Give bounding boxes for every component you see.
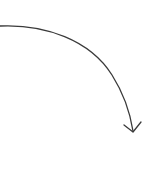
diagram-canvas bbox=[0, 0, 149, 181]
curved-arrow bbox=[0, 0, 149, 181]
arrow-shaft bbox=[0, 26, 133, 131]
